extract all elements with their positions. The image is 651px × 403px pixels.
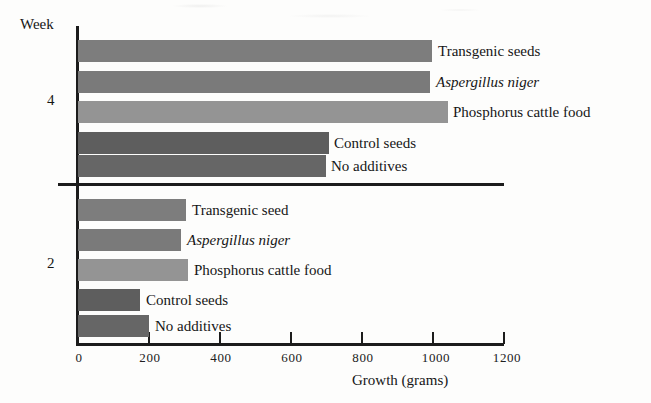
bar-label-week4-control-seeds: Control seeds bbox=[334, 132, 416, 154]
plot-area: 0 200 400 600 800 1000 1200 Week 4 2 Tra… bbox=[0, 0, 651, 403]
bar-label-week4-no-additives: No additives bbox=[331, 155, 407, 177]
bar-label-week2-aspergillus-niger: Aspergillus niger bbox=[187, 229, 290, 251]
x-tick-800 bbox=[361, 332, 363, 344]
bar-label-week4-phosphorus-cattle-food: Phosphorus cattle food bbox=[453, 101, 590, 123]
bar-label-week4-aspergillus-niger: Aspergillus niger bbox=[436, 71, 539, 93]
bar-week4-aspergillus-niger bbox=[78, 71, 430, 93]
bar-label-week2-no-additives: No additives bbox=[155, 315, 231, 337]
x-tick-label-600: 600 bbox=[281, 350, 302, 366]
bar-week4-control-seeds bbox=[78, 132, 329, 154]
x-tick-label-1000: 1000 bbox=[422, 350, 450, 366]
group-label-week-2: 2 bbox=[47, 255, 55, 272]
group-divider-line bbox=[58, 183, 504, 186]
bar-chart: 0 200 400 600 800 1000 1200 Week 4 2 Tra… bbox=[0, 0, 651, 403]
bar-label-week4-transgenic-seeds: Transgenic seeds bbox=[438, 40, 540, 62]
y-axis-title-week: Week bbox=[20, 16, 54, 33]
bar-week4-no-additives bbox=[78, 155, 326, 177]
x-axis-title: Growth (grams) bbox=[352, 372, 448, 389]
bar-week2-no-additives bbox=[78, 315, 149, 337]
x-tick-label-200: 200 bbox=[139, 350, 160, 366]
bar-week2-transgenic-seed bbox=[78, 199, 186, 221]
x-tick-label-0: 0 bbox=[75, 350, 82, 366]
group-label-week-4: 4 bbox=[47, 92, 55, 109]
bar-label-week2-transgenic-seed: Transgenic seed bbox=[192, 199, 289, 221]
x-tick-label-1200: 1200 bbox=[493, 350, 521, 366]
bar-label-week2-control-seeds: Control seeds bbox=[146, 289, 228, 311]
x-tick-label-400: 400 bbox=[210, 350, 231, 366]
bar-label-week2-phosphorus-cattle-food: Phosphorus cattle food bbox=[194, 259, 331, 281]
x-tick-1200 bbox=[503, 332, 505, 344]
x-tick-1000 bbox=[432, 332, 434, 344]
x-tick-600 bbox=[290, 332, 292, 344]
x-tick-label-800: 800 bbox=[352, 350, 373, 366]
bar-week2-phosphorus-cattle-food bbox=[78, 259, 188, 281]
bar-week2-control-seeds bbox=[78, 289, 140, 311]
bar-week2-aspergillus-niger bbox=[78, 229, 181, 251]
bar-week4-transgenic-seeds bbox=[78, 40, 432, 62]
bar-week4-phosphorus-cattle-food bbox=[78, 101, 448, 123]
